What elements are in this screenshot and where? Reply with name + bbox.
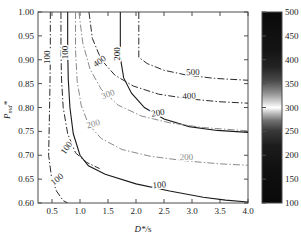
y-tick-label: 0.80 [18, 103, 34, 113]
x-tick-label: 0.5 [46, 206, 58, 216]
y-tick-label: 0.60 [18, 198, 34, 208]
x-tick-label: 4.0 [242, 206, 254, 216]
y-tick-label: 0.70 [18, 150, 34, 160]
colorbar-tick-label: 150 [285, 174, 299, 184]
contour-label: 500 [186, 67, 200, 77]
y-tick-label: 0.90 [18, 55, 34, 65]
y-tick-label: 0.75 [18, 126, 34, 136]
x-axis-label: D*/s [133, 224, 152, 234]
colorbar-tick-label: 100 [285, 198, 299, 208]
contour-label: 200 [179, 152, 193, 162]
contour-label: 100 [42, 50, 52, 64]
x-tick-label: 1.5 [102, 206, 114, 216]
colorbar-tick-label: 500 [285, 7, 299, 17]
x-tick-label: 2.5 [158, 206, 170, 216]
contour-label: 400 [182, 91, 197, 102]
colorbar-tick-label: 200 [285, 150, 299, 160]
x-tick-label: 3.0 [186, 206, 198, 216]
y-tick-label: 0.65 [18, 174, 34, 184]
colorbar-tick-label: 300 [285, 103, 299, 113]
x-tick-label: 2.0 [130, 206, 142, 216]
y-tick-label: 0.85 [18, 79, 34, 89]
y-tick-label: 1.00 [18, 7, 34, 17]
contour-label: 100 [152, 179, 167, 190]
colorbar-tick-label: 250 [285, 126, 299, 136]
x-tick-label: 1.0 [74, 206, 86, 216]
contour-label: 100 [60, 45, 70, 59]
figure-background [0, 0, 301, 238]
x-tick-label: 3.5 [214, 206, 226, 216]
colorbar-tick-label: 400 [285, 55, 299, 65]
colorbar-tick-label: 350 [285, 79, 299, 89]
contour-plot-figure: 0.51.01.52.02.53.03.54.0 0.600.650.700.7… [0, 0, 301, 238]
contour-label: 200 [112, 47, 122, 61]
plot-svg: 0.51.01.52.02.53.03.54.0 0.600.650.700.7… [0, 0, 301, 238]
colorbar-tick-label: 450 [285, 31, 299, 41]
y-tick-label: 0.95 [18, 31, 34, 41]
